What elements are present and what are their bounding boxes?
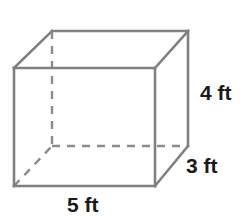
bottom-right-diagonal-edge [155, 146, 188, 186]
prism-drawing [0, 0, 241, 220]
depth-dimension-label: 3 ft [186, 155, 218, 176]
visible-edges-group [14, 31, 188, 186]
rectangular-prism-figure: 4 ft 3 ft 5 ft [0, 0, 241, 220]
hidden-edges-group [14, 31, 188, 186]
width-dimension-label: 5 ft [67, 194, 99, 215]
bottom-left-diagonal-edge [14, 146, 52, 186]
height-dimension-label: 4 ft [200, 82, 232, 103]
top-right-diagonal-edge [155, 31, 188, 68]
top-left-diagonal-edge [14, 31, 52, 68]
